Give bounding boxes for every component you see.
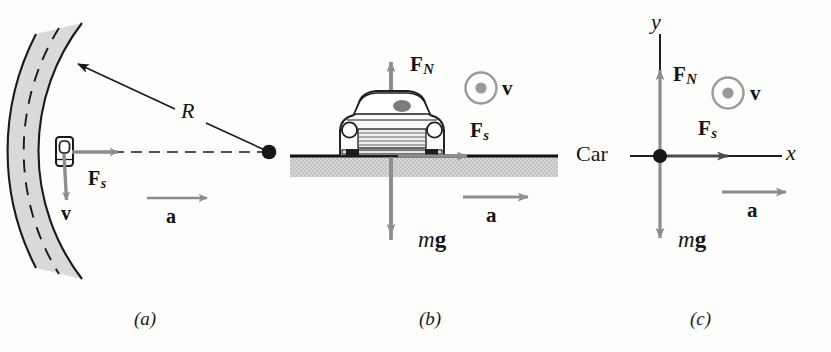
normal-force-label: FN: [410, 54, 434, 77]
velocity-out-of-page-icon: [466, 73, 497, 104]
panel-b-drawing: [290, 0, 570, 300]
x-axis-label: x: [786, 142, 796, 164]
origin-label: Car: [576, 143, 608, 165]
velocity-label: v: [750, 83, 761, 104]
panel-b: FN v Fs a mg (b): [290, 0, 570, 352]
weight-label: mg: [418, 228, 446, 251]
car-front-icon: [340, 91, 444, 157]
normal-force-label: FN: [673, 64, 697, 87]
panel-b-caption: (b): [290, 308, 570, 330]
friction-force-label: Fs: [88, 168, 106, 191]
velocity-label: v: [61, 203, 71, 223]
acceleration-label: a: [486, 205, 497, 226]
center-of-curvature-dot: [262, 145, 277, 160]
radius-line-right: [206, 123, 267, 151]
origin-dot: [653, 149, 667, 163]
panel-a-drawing: [0, 0, 290, 300]
radius-line-left: [78, 64, 175, 109]
acceleration-label: a: [166, 206, 176, 226]
velocity-out-of-page-icon: [713, 78, 744, 109]
ground-fill: [290, 157, 558, 177]
friction-force-label: Fs: [698, 118, 717, 141]
panel-a-caption: (a): [0, 308, 290, 330]
radius-label: R: [181, 100, 194, 122]
friction-force-label: Fs: [470, 120, 489, 143]
weight-label: mg: [678, 228, 706, 251]
physics-figure: R Fs v a (a): [0, 0, 831, 352]
panel-c-caption: (c): [570, 308, 831, 330]
panel-a: R Fs v a (a): [0, 0, 290, 352]
panel-c: y x FN v Fs Car a mg (c): [570, 0, 831, 352]
y-axis-label: y: [651, 11, 661, 33]
acceleration-label: a: [747, 200, 758, 221]
velocity-label: v: [502, 78, 513, 99]
